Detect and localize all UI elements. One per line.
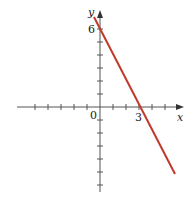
y-axis-arrow-icon — [97, 10, 103, 18]
y-axis-label: y — [87, 6, 95, 19]
x-intercept-label: 3 — [135, 111, 142, 124]
plotted-line — [94, 17, 175, 174]
y-intercept-label: 6 — [88, 23, 95, 36]
origin-label: 0 — [90, 109, 97, 122]
x-axis-label: x — [177, 111, 184, 124]
coordinate-plot: y 6 0 3 x — [0, 0, 195, 197]
x-axis-arrow-icon — [176, 104, 184, 110]
